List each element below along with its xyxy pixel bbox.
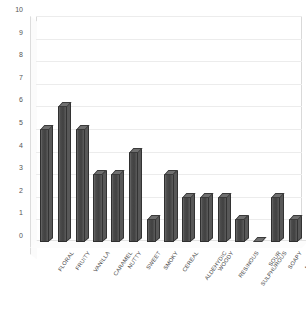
bar[interactable] — [147, 219, 156, 242]
y-axis-tick-label: 2 — [19, 187, 23, 195]
bar-body — [76, 129, 85, 242]
bar[interactable] — [289, 219, 298, 242]
bar-side-face — [102, 170, 107, 242]
bar-side-face — [119, 170, 124, 242]
y-axis: 012345678910 — [0, 10, 26, 242]
x-axis-tick-label: FLORAL — [57, 250, 75, 272]
bar[interactable] — [200, 197, 209, 242]
bar-body — [164, 174, 173, 242]
bar-body — [218, 197, 227, 242]
bars-layer — [36, 16, 302, 242]
y-axis-tick-label: 3 — [19, 164, 23, 172]
bar[interactable] — [129, 152, 138, 242]
bar-body — [58, 106, 67, 242]
bar-body — [129, 152, 138, 242]
bar-side-face — [208, 193, 213, 242]
bar-side-face — [66, 102, 71, 242]
bar-side-face — [226, 193, 231, 242]
bar-body — [235, 219, 244, 242]
bar[interactable] — [182, 197, 191, 242]
bar[interactable] — [164, 174, 173, 242]
bar-body — [289, 219, 298, 242]
bar-chart: 012345678910 FLORALFRUITYVANILLACARAMELN… — [0, 0, 306, 309]
x-axis-tick-label: RESINOUS — [237, 250, 260, 279]
bar-side-face — [84, 125, 89, 242]
x-axis-tick-label: SWEET — [145, 250, 162, 271]
bar-side-face — [137, 148, 142, 242]
x-axis-tick-label: SOAPY — [286, 250, 303, 270]
bar[interactable] — [253, 240, 262, 242]
y-axis-tick-label: 1 — [19, 209, 23, 217]
y-axis-tick-label: 4 — [19, 142, 23, 150]
plot-area — [30, 16, 302, 248]
y-axis-tick-label: 9 — [19, 29, 23, 37]
x-axis-tick-label: CEREAL — [181, 250, 199, 273]
bar-side-face — [279, 193, 284, 242]
x-axis-tick-label: FRUITY — [74, 250, 91, 271]
bar[interactable] — [218, 197, 227, 242]
bar[interactable] — [58, 106, 67, 242]
bar-body — [111, 174, 120, 242]
x-axis: FLORALFRUITYVANILLACARAMELNUTTYSWEETSMOK… — [30, 250, 302, 309]
bar-body — [147, 219, 156, 242]
y-axis-tick-label: 10 — [15, 6, 23, 14]
y-axis-tick-label: 7 — [19, 74, 23, 82]
x-axis-tick-label: VANILLA — [93, 250, 112, 273]
bar-side-face — [190, 193, 195, 242]
y-axis-tick-label: 8 — [19, 51, 23, 59]
bar[interactable] — [111, 174, 120, 242]
bar[interactable] — [76, 129, 85, 242]
y-axis-tick-label: 5 — [19, 119, 23, 127]
bar[interactable] — [40, 129, 49, 242]
bar-body — [200, 197, 209, 242]
bar[interactable] — [93, 174, 102, 242]
bar-body — [182, 197, 191, 242]
bar-body — [271, 197, 280, 242]
bar[interactable] — [271, 197, 280, 242]
bar-side-face — [173, 170, 178, 242]
x-axis-tick-label: SMOKY — [162, 250, 179, 271]
bar[interactable] — [235, 219, 244, 242]
x-axis-tick-label: MUSTY — [304, 250, 306, 270]
bar-body — [93, 174, 102, 242]
bar-side-face — [48, 125, 53, 242]
bar-body — [253, 240, 262, 242]
y-axis-tick-label: 6 — [19, 96, 23, 104]
bar-body — [40, 129, 49, 242]
y-axis-tick-label: 0 — [19, 232, 23, 240]
bar-top-face — [253, 237, 267, 242]
